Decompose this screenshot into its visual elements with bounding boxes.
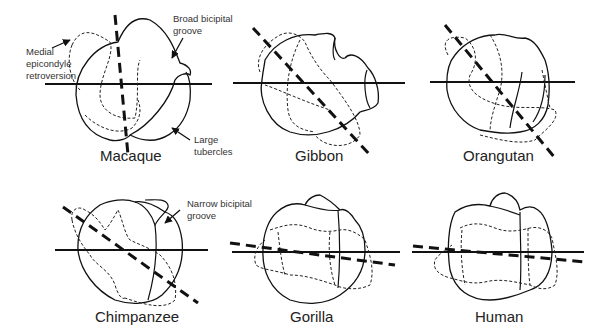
annotation-broad-bicipital-groove: Broad bicipital groove (173, 13, 233, 37)
gorilla-drawing (230, 195, 400, 303)
label-macaque: Macaque (100, 147, 162, 164)
annotation-narrow-bicipital-groove: Narrow bicipital groove (187, 198, 252, 222)
label-chimpanzee: Chimpanzee (95, 308, 179, 325)
chimpanzee-drawing (55, 200, 208, 306)
human-drawing (412, 193, 585, 300)
diagram-canvas (0, 0, 605, 333)
gibbon-drawing (233, 28, 405, 155)
orangutan-drawing (430, 25, 575, 158)
annotation-large-tubercles: Large tubercles (194, 134, 233, 158)
label-gibbon: Gibbon (295, 147, 343, 164)
annotation-medial-epicondyle: Medial epicondyle retroversion (26, 46, 76, 82)
label-orangutan: Orangutan (463, 147, 534, 164)
label-human: Human (475, 308, 523, 325)
label-gorilla: Gorilla (290, 308, 333, 325)
